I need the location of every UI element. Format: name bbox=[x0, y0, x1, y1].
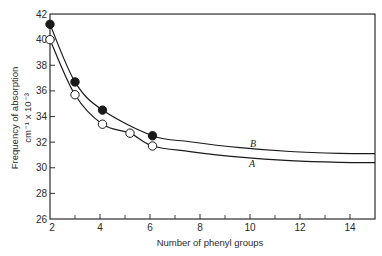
y-tick-label: 32 bbox=[36, 137, 48, 148]
plot-axes bbox=[50, 14, 375, 219]
filled-marker-b bbox=[98, 106, 106, 114]
x-tick-label: 14 bbox=[344, 222, 356, 233]
filled-marker-b bbox=[148, 132, 156, 140]
open-marker-a bbox=[98, 120, 106, 128]
curve-label-a: A bbox=[248, 158, 256, 169]
y-tick-label: 34 bbox=[36, 111, 48, 122]
curve-label-b: B bbox=[250, 138, 256, 149]
open-marker-a bbox=[46, 35, 54, 43]
x-tick-label: 12 bbox=[294, 222, 306, 233]
y-tick-label: 36 bbox=[36, 85, 48, 96]
open-marker-a bbox=[148, 142, 156, 150]
y-tick-label: 42 bbox=[36, 9, 48, 20]
open-marker-a bbox=[71, 91, 79, 99]
x-axis-title: Number of phenyl groups bbox=[157, 237, 264, 248]
filled-marker-b bbox=[46, 20, 54, 28]
y-tick-label: 38 bbox=[36, 60, 48, 71]
data-curves bbox=[50, 24, 375, 162]
x-tick-label: 10 bbox=[244, 222, 256, 233]
axis-ticks: 2628303234363840422468101214 bbox=[36, 9, 356, 233]
curve-b bbox=[50, 24, 375, 153]
y-axis-title: Frequency of absorption bbox=[9, 67, 20, 169]
chart: 2628303234363840422468101214 B A Number … bbox=[0, 0, 382, 256]
y-axis-units: cm⁻¹ x 10⁻³ bbox=[22, 93, 33, 143]
x-tick-label: 4 bbox=[97, 222, 103, 233]
open-marker-a bbox=[126, 129, 134, 137]
x-tick-label: 6 bbox=[147, 222, 153, 233]
y-tick-label: 26 bbox=[36, 214, 48, 225]
plot-frame bbox=[50, 14, 375, 219]
filled-marker-b bbox=[71, 78, 79, 86]
y-tick-label: 30 bbox=[36, 162, 48, 173]
x-tick-label: 2 bbox=[49, 222, 55, 233]
x-tick-label: 8 bbox=[197, 222, 203, 233]
y-tick-label: 28 bbox=[36, 188, 48, 199]
